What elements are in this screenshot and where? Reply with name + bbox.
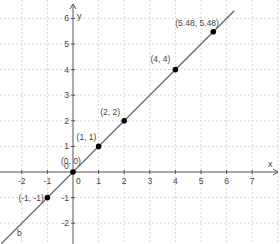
- line-y-equals-x: [1, 11, 234, 244]
- x-tick-label: 0: [76, 176, 81, 186]
- x-tick-label: 3: [147, 176, 152, 186]
- y-tick-label: 3: [64, 90, 69, 100]
- point-label: (5.48, 5.48): [175, 18, 219, 28]
- line-b: b: [1, 11, 234, 244]
- y-tick-label: 4: [64, 65, 69, 75]
- grid-lines: [0, 0, 280, 244]
- data-point: [121, 118, 127, 124]
- data-point: [210, 29, 216, 35]
- y-tick-label: 6: [64, 13, 69, 23]
- x-tick-label: 7: [250, 176, 255, 186]
- y-tick-label: 2: [64, 116, 69, 126]
- point-label: (2, 2): [100, 107, 120, 117]
- coordinate-plot: xy -2-1012345670-2-1123456 b (-1, -1)(0,…: [0, 0, 280, 244]
- data-point: [45, 195, 51, 201]
- y-tick-label: -1: [61, 193, 69, 203]
- x-axis-label: x: [268, 159, 273, 169]
- y-tick-label: 5: [64, 39, 69, 49]
- axes: xy: [0, 4, 278, 244]
- point-label: (-1, -1): [18, 193, 44, 203]
- x-tick-label: -1: [44, 176, 52, 186]
- x-tick-label: 4: [173, 176, 178, 186]
- data-points: (-1, -1)(0, 0)(1, 1)(2, 2)(4, 4)(5.48, 5…: [18, 18, 219, 203]
- point-label: (4, 4): [150, 54, 170, 64]
- x-tick-label: 6: [224, 176, 229, 186]
- point-label: (0, 0): [61, 156, 81, 166]
- data-point: [96, 144, 102, 150]
- line-label: b: [17, 228, 22, 238]
- data-point: [173, 67, 179, 73]
- y-tick-label: -2: [61, 218, 69, 228]
- x-tick-label: 5: [199, 176, 204, 186]
- x-tick-label: 2: [122, 176, 127, 186]
- x-tick-label: -2: [18, 176, 26, 186]
- y-tick-label: 1: [64, 141, 69, 151]
- point-label: (1, 1): [77, 132, 97, 142]
- y-axis-label: y: [77, 11, 82, 21]
- x-tick-label: 1: [96, 176, 101, 186]
- data-point: [70, 169, 76, 175]
